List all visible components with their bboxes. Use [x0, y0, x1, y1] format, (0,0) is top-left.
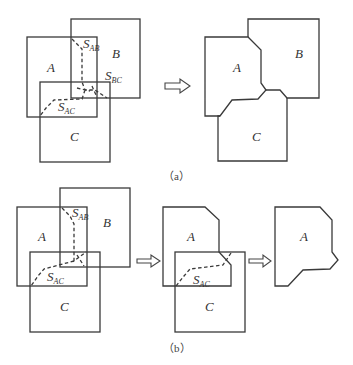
square-b — [60, 188, 130, 267]
label-a: A — [186, 229, 195, 244]
square-b — [71, 19, 140, 98]
label-b: B — [295, 46, 303, 61]
panel-a-after: A B C — [205, 19, 319, 161]
panel-b-step3: A — [275, 207, 338, 286]
label-b: B — [112, 46, 120, 61]
polygon-a — [205, 37, 266, 116]
arrow-right-icon — [249, 255, 271, 267]
label-a: A — [299, 229, 308, 244]
square-c — [175, 252, 245, 332]
overlap-label-sac: SAC — [58, 99, 75, 116]
label-c: C — [60, 299, 69, 314]
panel-b-step1: A B C SAB SAC — [17, 188, 130, 332]
label-a: A — [37, 229, 46, 244]
label-c: C — [70, 129, 79, 144]
label-c: C — [252, 129, 261, 144]
panel-b-step2: A C SAC — [163, 207, 245, 332]
polygon-a — [275, 207, 338, 286]
overlap-label-sbc: SBC — [105, 68, 122, 85]
caption-a: （a） — [163, 170, 190, 182]
label-c: C — [205, 299, 214, 314]
polygon-b — [248, 19, 319, 98]
label-b: B — [103, 215, 111, 230]
panel-a-before: A B C SAB SBC SAC — [27, 19, 140, 162]
label-a: A — [46, 60, 55, 75]
label-a: A — [232, 60, 241, 75]
arrow-right-icon — [137, 255, 160, 267]
caption-b: （b） — [163, 342, 191, 354]
figure-canvas: A B C SAB SBC SAC A B C （a） A B C SAB SA… — [0, 0, 353, 365]
overlap-label-sac: SAC — [47, 269, 64, 286]
arrow-right-icon — [165, 79, 190, 93]
square-c — [40, 82, 110, 162]
overlap-label-sac: SAC — [193, 272, 210, 289]
